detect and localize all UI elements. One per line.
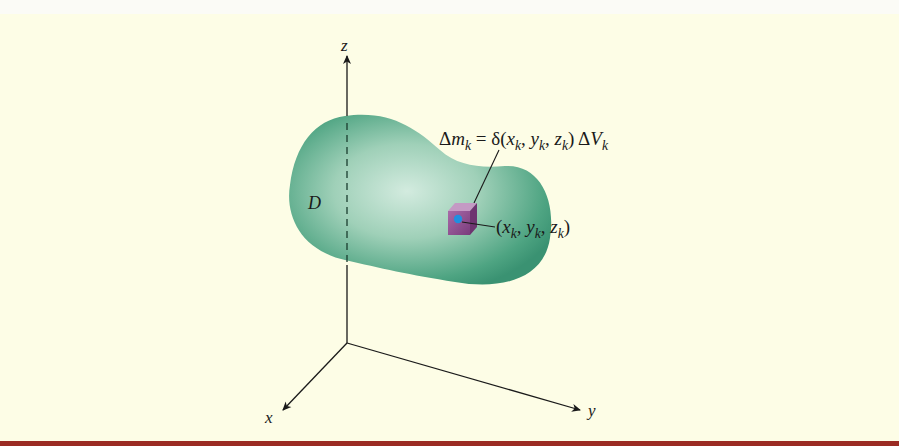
delta-symbol: Δ <box>439 128 451 149</box>
y-axis-label: y <box>588 401 596 421</box>
z-axis-label: z <box>341 36 348 56</box>
z-variable: z <box>550 216 557 237</box>
x-variable: x <box>507 128 515 149</box>
x-axis-label: x <box>265 408 273 428</box>
volume-element-cube <box>448 203 477 235</box>
diagram-graphics <box>0 0 899 446</box>
figure-canvas: z x y D Δmk = δ(xk, yk, zk) ΔVk (xk, yk,… <box>0 0 899 446</box>
x-axis <box>283 343 347 410</box>
delta-symbol: Δ <box>578 128 590 149</box>
subscript-k: k <box>602 138 608 153</box>
comma: , <box>545 128 555 149</box>
comma: , <box>521 128 531 149</box>
z-variable: z <box>555 128 562 149</box>
bottom-rule <box>0 441 899 446</box>
sample-point <box>454 215 462 223</box>
x-variable: x <box>502 216 510 237</box>
close-paren: ) <box>568 128 578 149</box>
close-paren: ) <box>564 216 570 237</box>
mass-element-formula: Δmk = δ(xk, yk, zk) ΔVk <box>439 128 608 154</box>
y-variable: y <box>531 128 539 149</box>
point-coordinate-label: (xk, yk, zk) <box>496 216 570 242</box>
y-axis <box>347 343 580 410</box>
y-variable: y <box>526 216 534 237</box>
comma: , <box>541 216 551 237</box>
m-variable: m <box>451 128 465 149</box>
equals-density: = δ( <box>471 128 507 149</box>
v-variable: V <box>590 128 602 149</box>
comma: , <box>517 216 527 237</box>
region-d-label: D <box>308 193 321 214</box>
